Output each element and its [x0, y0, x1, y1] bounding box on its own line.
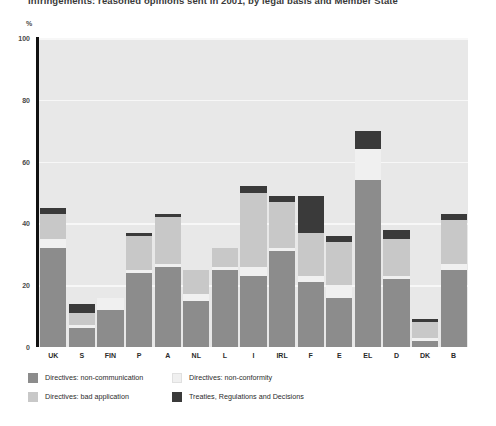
x-axis-tick-label: E — [326, 349, 352, 363]
y-axis-tick-label: 100 — [18, 35, 30, 42]
bar-segment — [40, 248, 66, 347]
x-axis-tick-label: F — [298, 349, 324, 363]
bar-segment — [269, 202, 295, 248]
y-axis-tick-label: 80 — [22, 96, 30, 103]
legend-item-bad-application: Directives: bad application — [28, 392, 172, 402]
y-axis-tick-label: 60 — [22, 158, 30, 165]
bar-segment — [97, 298, 123, 310]
legend-row: Directives: non-communication Directives… — [28, 368, 358, 387]
bar-segment — [183, 301, 209, 347]
legend-swatch-icon — [28, 392, 38, 402]
bar-segment — [355, 131, 381, 150]
bar-column-f — [298, 38, 324, 347]
x-axis-tick-label: B — [441, 349, 467, 363]
x-axis-labels: UKSFINPANLLIIRLFEELDDKB — [39, 349, 468, 363]
bar-segment — [412, 322, 438, 337]
bar-column-l — [212, 38, 238, 347]
legend-item-non-communication: Directives: non-communication — [28, 373, 172, 383]
bar-group — [39, 38, 468, 347]
bar-segment — [383, 279, 409, 347]
x-axis-tick-label: D — [383, 349, 409, 363]
legend-item-treaties-regulations-decisions: Treaties, Regulations and Decisions — [172, 392, 358, 402]
bar-segment — [126, 236, 152, 270]
x-axis-tick-label: DK — [412, 349, 438, 363]
bar-segment — [183, 270, 209, 295]
bar-segment — [383, 230, 409, 239]
bar-column-b — [441, 38, 467, 347]
bar-segment — [383, 239, 409, 276]
bar-column-i — [240, 38, 266, 347]
legend-swatch-icon — [172, 373, 182, 383]
bar-segment — [97, 310, 123, 347]
y-axis-tick-label: 20 — [22, 282, 30, 289]
x-axis-tick-label: EL — [355, 349, 381, 363]
chart-page: Infringements: reasoned opinions sent in… — [0, 0, 496, 426]
chart-legend: Directives: non-communication Directives… — [28, 368, 358, 406]
legend-label: Directives: non-communication — [45, 373, 143, 382]
bar-segment — [212, 248, 238, 267]
bar-column-dk — [412, 38, 438, 347]
bar-column-irl — [269, 38, 295, 347]
bar-segment — [240, 267, 266, 276]
bar-segment — [298, 233, 324, 276]
legend-swatch-icon — [172, 392, 182, 402]
bar-segment — [412, 341, 438, 347]
bar-segment — [240, 193, 266, 267]
bar-segment — [40, 214, 66, 239]
x-axis-tick-label: UK — [40, 349, 66, 363]
legend-label: Directives: bad application — [45, 392, 129, 401]
legend-row: Directives: bad application Treaties, Re… — [28, 387, 358, 406]
bar-column-uk — [40, 38, 66, 347]
legend-label: Directives: non-conformity — [189, 373, 272, 382]
legend-label: Treaties, Regulations and Decisions — [189, 392, 304, 401]
x-axis-tick-label: P — [126, 349, 152, 363]
bar-column-nl — [183, 38, 209, 347]
bar-segment — [355, 180, 381, 347]
bar-column-p — [126, 38, 152, 347]
bar-column-s — [69, 38, 95, 347]
bar-segment — [69, 313, 95, 325]
bar-segment — [69, 328, 95, 347]
y-axis-unit-label: % — [26, 20, 32, 27]
bar-segment — [126, 273, 152, 347]
bar-segment — [69, 304, 95, 313]
bar-segment — [441, 270, 467, 347]
bar-segment — [155, 217, 181, 263]
bar-segment — [240, 276, 266, 347]
bar-segment — [441, 220, 467, 263]
chart-title: Infringements: reasoned opinions sent in… — [28, 0, 468, 6]
x-axis-tick-label: L — [212, 349, 238, 363]
bar-column-fin — [97, 38, 123, 347]
x-axis-tick-label: FIN — [97, 349, 123, 363]
bar-segment — [298, 282, 324, 347]
y-axis-tick-label: 0 — [26, 344, 30, 351]
bar-segment — [326, 285, 352, 297]
legend-item-non-conformity: Directives: non-conformity — [172, 373, 358, 383]
bar-segment — [298, 196, 324, 233]
bar-segment — [212, 270, 238, 347]
x-axis-tick-label: A — [155, 349, 181, 363]
bar-segment — [355, 149, 381, 180]
bar-segment — [326, 298, 352, 347]
plot-area: 020406080100 — [36, 38, 468, 347]
bar-column-e — [326, 38, 352, 347]
bar-segment — [40, 239, 66, 248]
y-axis-tick-label: 40 — [22, 220, 30, 227]
x-axis-tick-label: I — [240, 349, 266, 363]
x-axis-tick-label: NL — [183, 349, 209, 363]
bar-segment — [155, 267, 181, 347]
bar-segment — [326, 242, 352, 285]
legend-swatch-icon — [28, 373, 38, 383]
bar-column-el — [355, 38, 381, 347]
bar-column-d — [383, 38, 409, 347]
bar-segment — [269, 251, 295, 347]
bar-column-a — [155, 38, 181, 347]
x-axis-tick-label: IRL — [269, 349, 295, 363]
x-axis-tick-label: S — [69, 349, 95, 363]
